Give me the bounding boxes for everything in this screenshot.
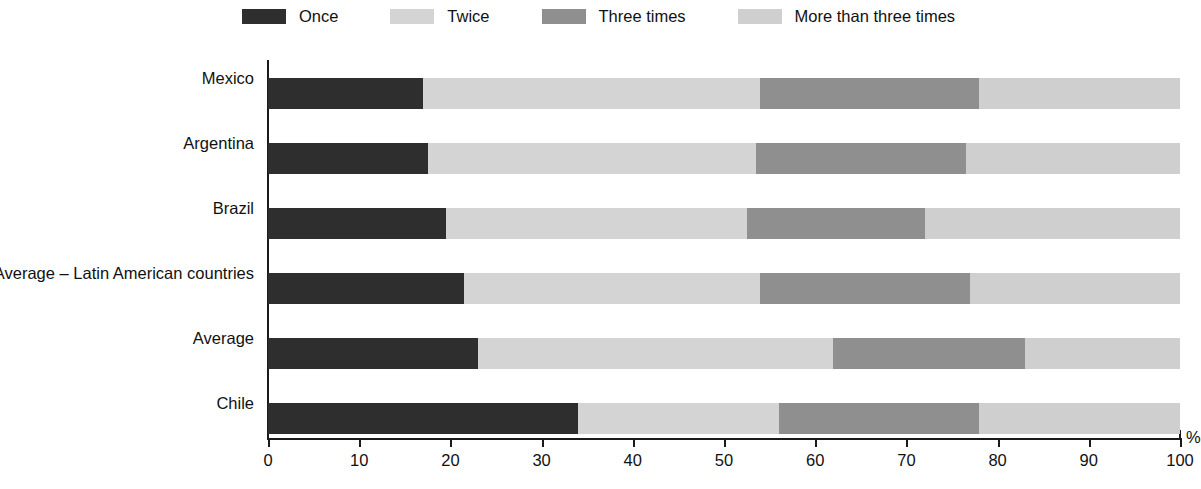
bar-segment: [970, 273, 1180, 304]
x-axis-tick-label: 30: [532, 452, 550, 469]
bar-segment: [1025, 338, 1180, 369]
bar-segment: [446, 208, 747, 239]
bar-segment: [833, 338, 1025, 369]
bar-segment: [268, 78, 423, 109]
stacked-bar: [268, 143, 1180, 174]
x-axis-tick-label: 20: [441, 452, 459, 469]
x-axis-tick: [815, 438, 817, 447]
bar-segment: [966, 143, 1180, 174]
legend-label-three-times: Three times: [599, 8, 686, 25]
legend-swatch-twice: [390, 9, 434, 24]
x-axis-tick: [1089, 438, 1091, 447]
chart-legend: Once Twice Three times More than three t…: [0, 8, 1197, 25]
bar-segment: [747, 208, 925, 239]
bar-rows: MexicoArgentinaBrazilAverage – Latin Ame…: [268, 60, 1180, 435]
x-axis-tick: [633, 438, 635, 447]
x-axis-tick-label: 10: [350, 452, 368, 469]
x-axis-tick-label: 0: [263, 452, 272, 469]
legend-label-twice: Twice: [447, 8, 489, 25]
legend-item-more-than-three-times: More than three times: [738, 8, 956, 25]
legend-item-once: Once: [242, 8, 338, 25]
bar-segment: [268, 403, 578, 434]
bar-segment: [478, 338, 834, 369]
category-label-mexico: Mexico: [202, 70, 254, 87]
bar-segment: [423, 78, 760, 109]
legend-item-three-times: Three times: [542, 8, 686, 25]
category-label-brazil: Brazil: [213, 200, 254, 217]
bar-segment: [779, 403, 980, 434]
stacked-bar: [268, 78, 1180, 109]
legend-label-more-than-three-times: More than three times: [795, 8, 956, 25]
category-label-average-latin-american-countries: Average – Latin American countries: [0, 265, 254, 282]
bar-segment: [578, 403, 779, 434]
x-axis-tick: [724, 438, 726, 447]
bar-segment: [979, 403, 1180, 434]
category-label-chile: Chile: [216, 395, 254, 412]
legend-swatch-three-times: [542, 9, 586, 24]
x-axis-tick-label: 70: [897, 452, 915, 469]
category-label-average: Average: [193, 330, 254, 347]
bar-segment: [428, 143, 756, 174]
bar-segment: [268, 273, 464, 304]
stacked-bar: [268, 403, 1180, 434]
x-axis-tick-label: 60: [806, 452, 824, 469]
x-axis-tick: [998, 438, 1000, 447]
bar-segment: [760, 273, 970, 304]
legend-swatch-more-than-three-times: [738, 9, 782, 24]
x-axis-tick-label: 90: [1080, 452, 1098, 469]
x-axis-tick: [906, 438, 908, 447]
x-axis-tick: [1180, 438, 1182, 447]
x-axis-unit-label: %: [1186, 429, 1201, 446]
x-axis-tick: [542, 438, 544, 447]
bar-segment: [268, 143, 428, 174]
bar-segment: [268, 208, 446, 239]
legend-label-once: Once: [299, 8, 338, 25]
stacked-bar: [268, 273, 1180, 304]
x-axis-tick-label: 40: [624, 452, 642, 469]
chart-plot-area: % 0102030405060708090100 MexicoArgentina…: [0, 60, 1197, 489]
bar-segment: [464, 273, 760, 304]
legend-item-twice: Twice: [390, 8, 489, 25]
stacked-bar: [268, 208, 1180, 239]
bar-segment: [268, 338, 478, 369]
legend-swatch-once: [242, 9, 286, 24]
category-label-argentina: Argentina: [183, 135, 254, 152]
x-axis-tick-label: 50: [715, 452, 733, 469]
bar-segment: [760, 78, 979, 109]
bar-segment: [925, 208, 1180, 239]
bar-segment: [979, 78, 1180, 109]
x-axis-tick: [450, 438, 452, 447]
bar-segment: [756, 143, 966, 174]
x-axis-tick: [268, 438, 270, 447]
x-axis-tick-label: 100: [1166, 452, 1194, 469]
stacked-bar: [268, 338, 1180, 369]
x-axis-tick-label: 80: [988, 452, 1006, 469]
x-axis-tick: [359, 438, 361, 447]
